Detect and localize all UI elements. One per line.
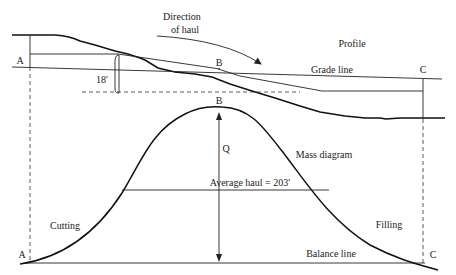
grade-line (12, 67, 442, 79)
grade-line-label: Grade line (311, 64, 353, 75)
point-c-bottom-label: C (430, 249, 437, 260)
q-label: Q (222, 143, 230, 154)
q-arrow-down-icon (216, 254, 222, 262)
direction-of-haul-label-1: Direction (163, 11, 201, 22)
mass-diagram-label: Mass diagram (296, 149, 353, 160)
profile-label: Profile (338, 38, 366, 49)
point-a-top-label: A (16, 55, 24, 66)
mass-curve (20, 107, 438, 270)
cut-slope-line (118, 54, 220, 69)
cutting-label: Cutting (50, 220, 80, 231)
average-haul-label: Average haul = 203' (210, 177, 290, 188)
point-c-top-label: C (420, 64, 427, 75)
depth-label: 18' (96, 74, 108, 85)
direction-of-haul-arrow (157, 36, 261, 64)
fill-slope-line (218, 69, 322, 91)
balance-line-label: Balance line (306, 248, 356, 259)
direction-of-haul-label-2: of haul (171, 24, 199, 35)
point-b-mass-label: B (216, 95, 223, 106)
point-a-bottom-label: A (18, 249, 26, 260)
q-arrow-up-icon (216, 112, 222, 120)
point-b-top-label: B (216, 57, 223, 68)
mass-diagram-figure: 18' Direction of haul Profile Grade line… (0, 0, 456, 275)
depth-bracket (115, 55, 119, 93)
filling-label: Filling (376, 219, 403, 230)
